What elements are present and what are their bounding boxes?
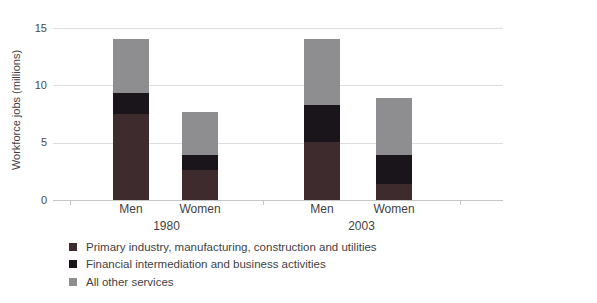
x-category-label: Men — [290, 202, 354, 216]
bar-segment-financial-intermediation — [182, 155, 218, 170]
y-tick-label: 15 — [0, 22, 47, 35]
legend-label-all-other-services: All other services — [86, 276, 174, 288]
x-axis-line — [53, 200, 503, 201]
legend-item-primary-industry: Primary industry, manufacturing, constru… — [69, 240, 377, 253]
x-category-label: Men — [99, 202, 163, 216]
legend-swatch-primary-industry — [69, 243, 77, 251]
legend-label-financial-intermediation: Financial intermediation and business ac… — [86, 258, 326, 270]
bar-segment-financial-intermediation — [304, 105, 340, 142]
bar-segment-financial-intermediation — [113, 93, 149, 114]
legend-label-primary-industry: Primary industry, manufacturing, constru… — [86, 241, 377, 253]
x-axis-tick — [263, 200, 264, 205]
bar-segment-primary-industry — [182, 170, 218, 200]
bar-segment-all-other-services — [304, 39, 340, 104]
legend-swatch-financial-intermediation — [69, 260, 77, 268]
bar-segment-all-other-services — [376, 98, 412, 155]
x-group-label: 2003 — [330, 219, 394, 233]
y-tick-label: 5 — [0, 136, 47, 149]
y-tick-label: 10 — [0, 79, 47, 92]
bar-segment-primary-industry — [376, 184, 412, 200]
bar-segment-financial-intermediation — [376, 155, 412, 184]
bar-segment-all-other-services — [113, 39, 149, 93]
legend-item-financial-intermediation: Financial intermediation and business ac… — [69, 258, 377, 271]
gridline — [53, 28, 503, 29]
legend: Primary industry, manufacturing, constru… — [69, 240, 377, 288]
x-axis-tick — [460, 200, 461, 205]
x-group-label: 1980 — [135, 219, 199, 233]
x-category-label: Women — [168, 202, 232, 216]
legend-item-all-other-services: All other services — [69, 275, 377, 288]
x-axis-tick — [70, 200, 71, 205]
x-category-label: Women — [362, 202, 426, 216]
legend-swatch-all-other-services — [69, 278, 77, 286]
bar-segment-primary-industry — [304, 142, 340, 200]
bar-segment-primary-industry — [113, 114, 149, 200]
bar-segment-all-other-services — [182, 112, 218, 156]
y-tick-label: 0 — [0, 194, 47, 207]
y-axis-title: Workforce jobs (millions) — [10, 50, 22, 170]
